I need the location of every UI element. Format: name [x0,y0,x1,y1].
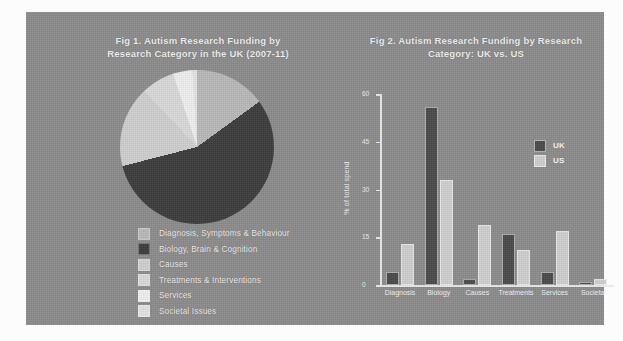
bar-legend-swatch-icon [534,155,546,167]
pie-legend-label: Causes [159,260,188,269]
bar-legend-item: US [534,153,565,168]
figure-1-title-line-2: Research Category in the UK (2007-11) [64,47,332,60]
figure-1-title-line-1: Fig 1. Autism Research Funding by [64,34,332,47]
pie-legend-item: Diagnosis, Symptoms & Behaviour [138,226,338,242]
x-axis-label: Services [541,289,568,296]
bar-legend-label: UK [553,141,565,150]
y-axis-tick-label: 15 [362,234,369,241]
bar-chart-legend: UKUS [534,138,565,168]
bar-plot-area: % of total spend 015304560 DiagnosisBiol… [352,92,614,310]
pie-legend-swatch-icon [138,274,150,286]
bar-series-container [382,94,614,285]
bar-uk-societal [579,282,592,285]
pie-legend-item: Causes [138,257,338,273]
y-axis-tick [376,94,380,96]
y-axis-tick [376,237,380,239]
y-axis-tick-label: 45 [362,139,369,146]
bar-legend-item: UK [534,138,565,153]
x-axis-label: Causes [465,289,489,296]
figure-2-title: Fig 2. Autism Research Funding by Resear… [326,34,623,60]
y-axis-tick-label: 60 [362,91,369,98]
pie-legend-label: Diagnosis, Symptoms & Behaviour [159,229,290,238]
pie-legend-swatch-icon [138,228,150,240]
y-axis-tick [376,285,380,287]
bar-legend-swatch-icon [534,140,546,152]
y-axis-tick [376,142,380,144]
figure-2-bar-chart: Fig 2. Autism Research Funding by Resear… [326,34,623,324]
pie-legend-swatch-icon [138,243,150,255]
pie-legend-label: Services [159,291,192,300]
pie-legend-swatch-icon [138,290,150,302]
bar-group [579,94,609,285]
x-axis-label: Societal [581,289,606,296]
pie-legend-label: Biology, Brain & Cognition [159,245,257,254]
pie-legend-item: Services [138,288,338,304]
pie-legend: Diagnosis, Symptoms & BehaviourBiology, … [138,226,338,319]
figure-2-title-line-1: Fig 2. Autism Research Funding by Resear… [326,34,623,47]
pie-legend-label: Treatments & Interventions [159,276,261,285]
bar-uk-biology [425,107,438,285]
pie-legend-swatch-icon [138,305,150,317]
pie-legend-item: Biology, Brain & Cognition [138,242,338,258]
bar-legend-label: US [553,156,565,165]
bar-us-services [556,231,569,285]
pie-legend-label: Societal Issues [159,307,216,316]
x-axis-label: Treatments [498,289,533,296]
y-axis-tick-label: 30 [362,186,369,193]
x-axis-label: Biology [427,289,450,296]
bar-group [425,94,455,285]
figure-1-title: Fig 1. Autism Research Funding by Resear… [64,34,332,60]
page-root: Fig 1. Autism Research Funding by Resear… [0,0,623,341]
bar-group [502,94,532,285]
bar-uk-diagnosis [386,272,399,285]
pie-graphic [120,70,274,224]
x-axis-label: Diagnosis [385,289,416,296]
figure-2-title-line-2: Category: UK vs. US [326,47,623,60]
bar-us-treatments [517,250,530,285]
bar-us-causes [478,225,491,285]
pie-legend-swatch-icon [138,259,150,271]
x-axis-line [380,285,614,287]
bar-us-biology [440,180,453,285]
bar-group [541,94,571,285]
bar-us-diagnosis [401,244,414,285]
y-axis-label: % of total spend [343,161,350,214]
bar-us-societal [594,279,607,285]
bar-group [386,94,416,285]
pie-legend-item: Treatments & Interventions [138,273,338,289]
pie-chart-area [110,82,282,212]
pie-legend-item: Societal Issues [138,304,338,320]
y-axis-tick-label: 0 [362,282,366,289]
bar-uk-causes [463,279,476,285]
bar-uk-services [541,272,554,285]
figure-panel: Fig 1. Autism Research Funding by Resear… [26,12,604,325]
bar-uk-treatments [502,234,515,285]
y-axis-tick [376,190,380,192]
bar-group [463,94,493,285]
figure-1-pie-chart: Fig 1. Autism Research Funding by Resear… [64,34,332,324]
